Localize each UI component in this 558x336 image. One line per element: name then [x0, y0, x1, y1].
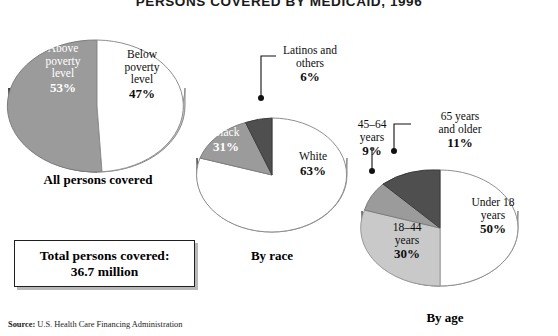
source-note: Source:U.S. Health Care Financing Admini… [8, 320, 182, 329]
label-above-poverty: Abovepovertylevel 53% [20, 42, 106, 95]
page-title: PERSONS COVERED BY MEDICAID, 1996 [0, 0, 558, 9]
label-black-text: Black [213, 126, 240, 138]
total-persons-line1: Total persons covered: [40, 248, 170, 264]
label-45-64-pct: 9% [340, 143, 404, 158]
source-label: Source: [8, 320, 35, 329]
label-18-44-pct: 30% [376, 246, 438, 261]
caption-by-race: By race [204, 248, 340, 264]
label-white-pct: 63% [284, 163, 342, 178]
label-45-64: 45–64years 9% [340, 118, 404, 158]
label-below-poverty-text: Belowpovertylevel [124, 48, 159, 85]
label-white: White 63% [284, 150, 342, 178]
label-black-pct: 31% [196, 139, 256, 154]
label-65-plus-pct: 11% [414, 135, 506, 150]
chart-page: PERSONS COVERED BY MEDICAID, 1996 Abovep… [0, 0, 558, 336]
label-below-poverty-pct: 47% [103, 86, 181, 101]
total-persons-line2: 36.7 million [71, 264, 139, 280]
label-18-44-text: 18–44years [393, 221, 422, 246]
label-latinos: Latinos andothers 6% [262, 44, 358, 84]
source-text: U.S. Health Care Financing Administratio… [37, 320, 182, 329]
label-below-poverty: Belowpovertylevel 47% [103, 48, 181, 101]
label-latinos-text: Latinos andothers [283, 44, 337, 69]
label-under-18-pct: 50% [452, 221, 534, 236]
label-above-poverty-text: Abovepovertylevel [45, 42, 80, 79]
caption-by-age: By age [380, 310, 510, 326]
label-under-18-text: Under 18years [471, 196, 514, 221]
label-65-plus-text: 65 yearsand older [438, 110, 481, 135]
caption-all-persons: All persons covered [0, 172, 196, 188]
label-black: Black 31% [196, 126, 256, 154]
label-45-64-text: 45–64years [358, 118, 387, 143]
label-65-plus: 65 yearsand older 11% [414, 110, 506, 150]
label-18-44: 18–44years 30% [376, 221, 438, 261]
total-persons-callout: Total persons covered: 36.7 million [14, 240, 195, 287]
label-latinos-pct: 6% [262, 69, 358, 84]
label-under-18: Under 18years 50% [452, 196, 534, 236]
label-white-text: White [299, 150, 327, 162]
label-above-poverty-pct: 53% [20, 80, 106, 95]
